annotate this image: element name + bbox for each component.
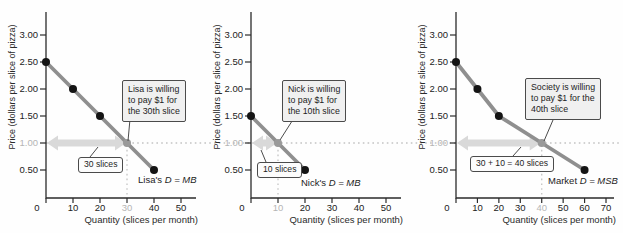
x-axis-label: Quantity (slices per month)	[28, 214, 198, 225]
x-axis-label: Quantity (slices per month)	[446, 214, 616, 225]
curve-label-prefix: Lisa's	[138, 174, 165, 185]
callout-line: Lisa is willing	[128, 84, 180, 95]
x-tick-label: 10	[60, 203, 86, 213]
callout-line: the 30th slice	[128, 106, 180, 117]
callout-line: Nick is willing	[288, 84, 340, 95]
x-axis-label: Quantity (slices per month)	[233, 214, 403, 225]
x-tick-label: 20	[292, 203, 318, 213]
data-point	[150, 166, 158, 174]
curve-label: Nick's D = MB	[301, 177, 361, 188]
y-axis-label: Price (dollars per slice of pizza)	[417, 2, 429, 172]
data-point	[247, 112, 255, 120]
callout-line: Society is willing	[531, 82, 595, 93]
callout-box: Lisa is willingto pay $1 forthe 30th sli…	[122, 80, 186, 122]
quantity-span-arrow	[457, 136, 541, 151]
data-point	[473, 85, 481, 93]
curve-label-symbol: D = MB	[165, 174, 197, 185]
callout-line: to pay $1 for	[128, 95, 180, 106]
callout-box: Nick is willingto pay $1 forthe 10th sli…	[282, 80, 346, 122]
callout-line: to pay $1 for the	[531, 93, 595, 104]
slices-leader-line	[513, 147, 521, 156]
curve-label: Lisa's D = MB	[138, 174, 197, 185]
x-tick-label: 40	[141, 203, 167, 213]
data-point	[42, 58, 50, 66]
data-point	[495, 112, 503, 120]
callout-box: Society is willingto pay $1 for the40th …	[525, 78, 601, 120]
x-tick-label: 20	[87, 203, 113, 213]
x-tick-label: 70	[593, 203, 619, 213]
x-tick-label: 10	[265, 203, 291, 213]
curve-label-prefix: Nick's	[301, 177, 329, 188]
x-tick-label: 50	[168, 203, 194, 213]
curve-label-symbol: D = MB	[329, 177, 361, 188]
curve-label-prefix: Market	[548, 175, 580, 186]
data-point	[581, 166, 589, 174]
highlight-point	[123, 139, 131, 147]
curve-label: Market D = MSB	[548, 175, 618, 186]
x-tick-label: 30	[114, 203, 140, 213]
slices-leader-line	[261, 150, 266, 162]
slices-label-box: 30 slices	[78, 157, 123, 173]
quantity-span-arrow	[47, 136, 126, 151]
callout-leader-line	[128, 119, 130, 141]
x-tick-label: 0	[229, 203, 255, 213]
callout-line: the 10th slice	[288, 106, 340, 117]
callout-leader-line	[544, 120, 553, 141]
data-point	[69, 85, 77, 93]
y-axis-label: Price (dollars per slice of pizza)	[212, 2, 224, 172]
x-tick-label: 40	[346, 203, 372, 213]
data-point	[301, 166, 309, 174]
slices-label-box: 30 + 10 = 40 slices	[470, 156, 554, 172]
x-tick-label: 0	[434, 203, 460, 213]
highlight-point	[274, 139, 282, 147]
x-tick-label: 50	[373, 203, 399, 213]
slices-leader-line	[90, 147, 98, 157]
data-point	[96, 112, 104, 120]
callout-line: to pay $1 for	[288, 95, 340, 106]
callout-line: 40th slice	[531, 104, 595, 115]
y-axis-label: Price (dollars per slice of pizza)	[7, 2, 19, 172]
x-tick-label: 30	[319, 203, 345, 213]
slices-label-box: 10 slices	[257, 162, 302, 178]
pizza-demand-figure: 0.501.001.502.002.503.0001020304050Quant…	[0, 0, 623, 233]
data-point	[452, 58, 460, 66]
curve-label-symbol: D = MSB	[580, 175, 618, 186]
x-tick-label: 0	[24, 203, 50, 213]
